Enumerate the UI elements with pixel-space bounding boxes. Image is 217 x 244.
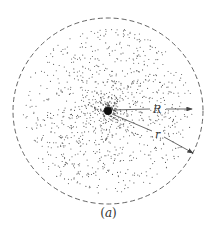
r-arrow <box>164 137 193 153</box>
R-label: R <box>152 103 161 116</box>
center-nucleus <box>104 107 112 115</box>
figure-caption: (a) <box>0 206 217 220</box>
caption-letter: a <box>105 206 112 220</box>
r-label: r <box>155 128 161 141</box>
R-arrow-segment-1 <box>112 109 150 110</box>
